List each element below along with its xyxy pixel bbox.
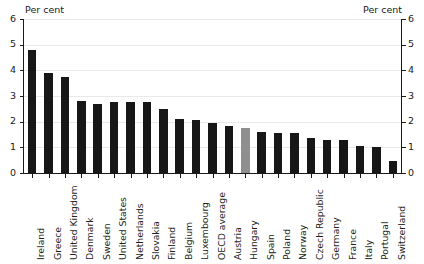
bar-poland[interactable]: [274, 133, 283, 173]
x-label-switzerland: Switzerland: [397, 206, 407, 260]
x-tick: [81, 174, 82, 178]
bar-hungary[interactable]: [241, 128, 250, 173]
y-tick-left: [20, 19, 24, 20]
x-tick: [98, 174, 99, 178]
bar-czech-republic[interactable]: [307, 138, 316, 173]
left-axis-caption: Per cent: [25, 4, 64, 15]
bar-spain[interactable]: [257, 132, 266, 173]
y-tick-label-right: 2: [408, 116, 414, 126]
y-tick-label-right: 4: [408, 65, 414, 75]
x-tick: [278, 174, 279, 178]
x-label-germany: Germany: [331, 217, 341, 260]
x-tick: [393, 174, 394, 178]
x-tick: [213, 174, 214, 178]
bar-united-states[interactable]: [110, 102, 119, 173]
x-label-belgium: Belgium: [184, 222, 194, 260]
bar-france[interactable]: [339, 140, 348, 173]
y-tick-label-left: 0: [10, 168, 16, 178]
y-tick-label-right: 1: [408, 142, 414, 152]
x-label-slovakia: Slovakia: [151, 221, 161, 260]
x-tick: [147, 174, 148, 178]
y-tick-left: [20, 122, 24, 123]
y-tick-label-left: 3: [10, 91, 16, 101]
y-tick-right: [402, 173, 406, 174]
y-tick-label-right: 6: [408, 14, 414, 24]
x-label-luxembourg: Luxembourg: [200, 202, 210, 260]
x-tick: [262, 174, 263, 178]
x-tick: [196, 174, 197, 178]
bar-ireland[interactable]: [28, 50, 37, 173]
x-tick: [360, 174, 361, 178]
x-tick: [114, 174, 115, 178]
x-label-finland: Finland: [167, 227, 177, 260]
bar-denmark[interactable]: [77, 101, 86, 173]
x-tick: [344, 174, 345, 178]
x-label-france: France: [348, 229, 358, 260]
bar-netherlands[interactable]: [126, 102, 135, 173]
x-label-ireland: Ireland: [36, 228, 46, 260]
y-tick-left: [20, 45, 24, 46]
bar-luxembourg[interactable]: [192, 120, 201, 173]
x-label-norway: Norway: [298, 225, 308, 260]
x-tick: [163, 174, 164, 178]
x-label-spain: Spain: [266, 234, 276, 260]
y-tick-label-left: 4: [10, 65, 16, 75]
y-tick-right: [402, 147, 406, 148]
x-label-denmark: Denmark: [85, 217, 95, 260]
y-tick-label-left: 5: [10, 39, 16, 49]
x-label-portugal: Portugal: [380, 221, 390, 260]
bar-switzerland[interactable]: [389, 161, 398, 173]
chart-container: Per cent Per cent 0123456 0123456 Irelan…: [0, 0, 424, 264]
bar-austria[interactable]: [225, 126, 234, 173]
bar-slovakia[interactable]: [143, 102, 152, 173]
x-tick: [131, 174, 132, 178]
x-label-sweden: Sweden: [102, 223, 112, 260]
x-label-italy: Italy: [364, 240, 374, 260]
y-tick-right: [402, 122, 406, 123]
bar-germany[interactable]: [323, 140, 332, 173]
y-tick-right: [402, 70, 406, 71]
x-label-poland: Poland: [282, 229, 292, 260]
x-label-greece: Greece: [53, 227, 63, 260]
bar-united-kingdom[interactable]: [61, 77, 70, 173]
bar-finland[interactable]: [159, 109, 168, 173]
x-label-netherlands: Netherlands: [135, 203, 145, 260]
y-tick-label-left: 1: [10, 142, 16, 152]
y-tick-label-right: 0: [408, 168, 414, 178]
x-label-austria: Austria: [233, 227, 243, 260]
bar-belgium[interactable]: [175, 119, 184, 173]
bar-italy[interactable]: [356, 146, 365, 173]
y-tick-label-right: 3: [408, 91, 414, 101]
y-tick-left: [20, 147, 24, 148]
y-tick-right: [402, 96, 406, 97]
x-tick: [245, 174, 246, 178]
y-tick-label-left: 6: [10, 14, 16, 24]
x-tick: [65, 174, 66, 178]
x-tick: [32, 174, 33, 178]
x-tick: [180, 174, 181, 178]
y-tick-right: [402, 19, 406, 20]
x-label-czech-republic: Czech Republic: [315, 189, 325, 260]
bar-norway[interactable]: [290, 133, 299, 173]
bar-sweden[interactable]: [93, 104, 102, 173]
x-label-united-kingdom: United Kingdom: [69, 185, 79, 260]
x-tick: [229, 174, 230, 178]
y-tick-left: [20, 96, 24, 97]
y-tick-left: [20, 70, 24, 71]
y-tick-left: [20, 173, 24, 174]
x-tick: [327, 174, 328, 178]
bar-series: [24, 19, 401, 173]
x-label-united-states: United States: [118, 197, 128, 260]
bar-portugal[interactable]: [372, 147, 381, 173]
x-tick: [49, 174, 50, 178]
x-label-hungary: Hungary: [249, 220, 259, 260]
y-tick-right: [402, 45, 406, 46]
x-tick: [294, 174, 295, 178]
x-tick: [311, 174, 312, 178]
bar-greece[interactable]: [44, 73, 53, 173]
bar-oecd-average[interactable]: [208, 123, 217, 173]
y-tick-label-right: 5: [408, 39, 414, 49]
x-label-oecd-average: OECD average: [217, 192, 227, 260]
x-axis-labels: IrelandGreeceUnited KingdomDenmarkSweden…: [0, 180, 424, 264]
x-tick: [376, 174, 377, 178]
